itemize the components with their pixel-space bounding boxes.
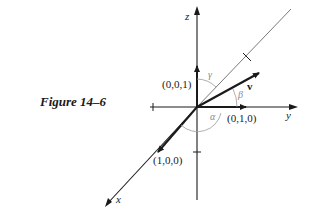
unit-vector-j-label: (0,1,0) <box>227 112 257 125</box>
unit-vector-k-label: (0,0,1) <box>162 78 192 91</box>
vector-v-label: v <box>247 80 253 92</box>
alpha-label: α <box>210 111 216 122</box>
gamma-arc <box>197 79 216 87</box>
x-axis-label: x <box>115 193 121 205</box>
y-axis-label: y <box>285 109 291 121</box>
gamma-label: γ <box>208 69 213 80</box>
z-axis-label: z <box>184 10 190 22</box>
beta-label: β <box>237 89 243 100</box>
beta-arc <box>233 89 237 107</box>
direction-angles-diagram: z y x (0,0,1) (0,1,0) (1,0,0) v γ β α <box>0 0 310 217</box>
unit-vector-i-label: (1,0,0) <box>153 154 183 167</box>
unit-vector-i <box>158 107 197 152</box>
direction-line <box>197 9 291 107</box>
z-axis-arrowhead-icon <box>194 6 200 15</box>
